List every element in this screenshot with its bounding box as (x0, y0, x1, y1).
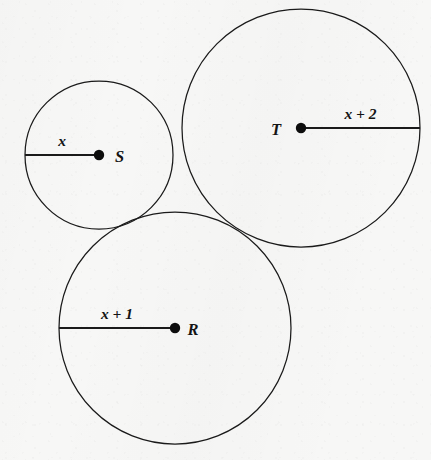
circles-diagram: x S x + 2 T x + 1 R (0, 0, 431, 460)
radius-label-r: x + 1 (100, 305, 133, 322)
center-dot-s (94, 150, 104, 160)
circle-group-t: x + 2 T (182, 9, 420, 247)
center-dot-t (296, 123, 306, 133)
point-label-t: T (271, 120, 282, 139)
center-dot-r (170, 323, 180, 333)
point-label-s: S (115, 147, 124, 166)
circle-group-s: x S (25, 81, 173, 229)
radius-label-t: x + 2 (343, 105, 376, 122)
point-label-r: R (186, 320, 198, 339)
circle-group-r: x + 1 R (59, 212, 291, 444)
radius-label-s: x (57, 132, 66, 149)
geometry-figure: x S x + 2 T x + 1 R (0, 0, 431, 460)
